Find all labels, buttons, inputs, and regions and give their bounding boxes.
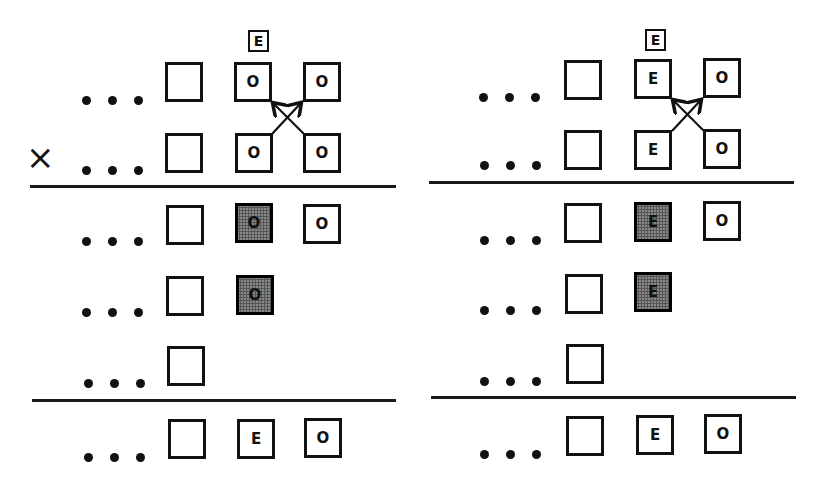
ellipsis-dots — [82, 237, 143, 246]
cross-mark-icon: × — [26, 140, 55, 174]
ellipsis-dots — [480, 161, 541, 170]
tile: E — [237, 419, 275, 459]
tile-empty — [165, 133, 203, 173]
tile-empty — [566, 344, 604, 384]
tile: O — [303, 133, 341, 173]
tile-empty — [166, 276, 204, 316]
tile-empty — [564, 60, 602, 100]
tile-empty — [167, 346, 205, 386]
tile-empty — [165, 62, 203, 102]
tile-shaded: E — [634, 202, 672, 242]
tile: O — [304, 418, 342, 458]
tile-shaded: O — [236, 275, 274, 315]
divider-line — [32, 399, 396, 402]
tile-empty — [166, 205, 204, 245]
tile-empty — [566, 416, 604, 456]
tile: O — [703, 201, 741, 241]
tile-shaded: E — [634, 272, 672, 312]
incoming-tile: E — [248, 30, 269, 52]
incoming-tile: E — [645, 29, 666, 51]
tile-empty — [168, 419, 206, 459]
divider-line — [431, 396, 796, 399]
tile-empty — [564, 130, 602, 170]
divider-line — [30, 185, 396, 188]
ellipsis-dots — [82, 308, 143, 317]
ellipsis-dots — [480, 450, 541, 459]
tile: E — [634, 130, 672, 170]
swap-arrows-icon — [268, 100, 308, 136]
tile: O — [704, 414, 742, 454]
ellipsis-dots — [84, 379, 145, 388]
swap-arrows-icon — [668, 97, 708, 133]
ellipsis-dots — [480, 236, 541, 245]
ellipsis-dots — [82, 96, 143, 105]
tile: O — [703, 58, 741, 98]
ellipsis-dots — [82, 166, 143, 175]
tile: E — [636, 415, 674, 455]
tile: O — [235, 133, 273, 173]
tile: O — [234, 62, 272, 102]
divider-line — [429, 181, 794, 184]
tile: O — [303, 62, 341, 102]
tile: E — [634, 59, 672, 99]
ellipsis-dots — [480, 377, 541, 386]
tile-empty — [565, 274, 603, 314]
ellipsis-dots — [479, 93, 540, 102]
tile-shaded: O — [235, 203, 273, 243]
tile-empty — [564, 203, 602, 243]
ellipsis-dots — [480, 306, 541, 315]
tile: O — [303, 204, 341, 244]
ellipsis-dots — [84, 453, 145, 462]
tile: O — [703, 129, 741, 169]
